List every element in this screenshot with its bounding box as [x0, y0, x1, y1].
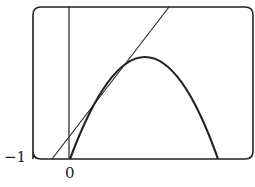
parabola-curve	[70, 57, 218, 159]
origin-label: 0	[65, 164, 75, 182]
diagram-figure: −1 0	[0, 0, 255, 187]
left-tick-label: −1	[4, 148, 26, 166]
plot-frame	[33, 7, 253, 159]
